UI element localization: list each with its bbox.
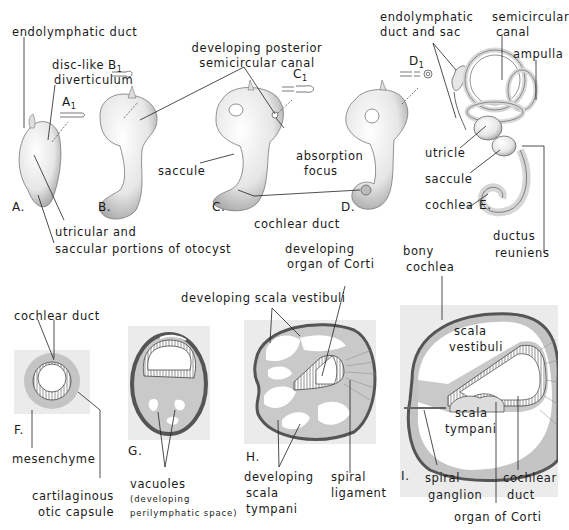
label-spiral-ganglion-2: ganglion [428, 488, 482, 502]
label-absorption-focus-1: absorption [296, 149, 363, 163]
label-developing-scala-vestibuli: developing scala vestibuli [181, 291, 346, 305]
label-bony-cochlea-2: cochlea [406, 260, 455, 274]
label-cochlea: cochlea [425, 198, 474, 212]
panel-label-c: C. [212, 200, 225, 214]
label-utricular-and: utricular and [55, 225, 136, 239]
cross-section-f [14, 350, 90, 414]
label-ductus-reuniens-1: ductus [493, 229, 535, 243]
panel-label-b: B. [98, 200, 111, 214]
label-absorption-focus-2: focus [304, 164, 338, 178]
label-endolymphatic-duct-sac-2: duct and sac [380, 25, 461, 39]
labyrinth-e [452, 50, 536, 212]
label-semicircular-canal-2: canal [496, 25, 530, 39]
otocyst-a [19, 114, 61, 207]
label-scala-tympani-1: scala [455, 406, 488, 420]
label-developing-posterior-1: developing posterior [162, 41, 352, 55]
panel-label-i: I. [401, 469, 410, 483]
label-cochlear-duct-f: cochlear duct [14, 309, 100, 323]
inset-d1 [400, 70, 432, 104]
label-developing-scala-tympani-1: developing [244, 470, 314, 484]
label-spiral-ligament-2: ligament [331, 486, 387, 500]
label-bony-cochlea-1: bony [403, 244, 434, 258]
label-spiral-ligament-1: spiral [331, 470, 366, 484]
label-saccular-portions: saccular portions of otocyst [55, 242, 231, 256]
label-ductus-reuniens-2: reuniens [495, 246, 549, 260]
label-scala-tympani-2: tympani [445, 422, 497, 436]
otocyst-d [346, 80, 408, 209]
panel-label-e: E. [479, 198, 492, 212]
label-developing-organ-corti-2: organ of Corti [287, 257, 375, 271]
label-saccule-c: saccule [158, 164, 205, 178]
label-scala-vestibuli-1: scala [454, 324, 487, 338]
label-developing-scala-tympani-2: scala [246, 486, 279, 500]
label-spiral-ganglion-1: spiral [425, 471, 460, 485]
panel-label-g: G. [128, 444, 142, 458]
panel-label-d: D. [341, 200, 355, 214]
cross-section-h [244, 320, 376, 444]
label-semicircular-canal-1: semicircular [492, 10, 569, 24]
label-ampulla: ampulla [513, 47, 563, 61]
label-endolymphatic-duct-sac-1: endolymphatic [380, 10, 473, 24]
panel-label-f: F. [14, 423, 24, 437]
label-developing-posterior-2: semicircular canal [162, 56, 352, 70]
label-scala-vestibuli-2: vestibuli [449, 340, 503, 354]
label-cochlear-duct: cochlear duct [254, 217, 340, 231]
label-vacuoles: vacuoles [130, 477, 186, 491]
inset-label-a1: A1 [62, 95, 77, 114]
label-cartilaginous-2: otic capsule [38, 505, 114, 519]
label-vacuoles-sub-1: (developing [130, 494, 190, 505]
label-endolymphatic-duct: endolymphatic duct [12, 25, 137, 39]
label-utricle: utricle [425, 146, 466, 160]
label-disc-like-1: disc-like [52, 58, 104, 72]
label-developing-scala-tympani-3: tympani [246, 502, 298, 516]
label-organ-of-corti: organ of Corti [454, 510, 542, 524]
cross-section-g [128, 326, 210, 440]
inset-label-d1: D1 [409, 54, 425, 73]
label-mesenchyme: mesenchyme [12, 452, 95, 466]
inset-label-c1: C1 [293, 67, 308, 86]
inset-label-b1: B1 [108, 58, 123, 77]
label-vacuoles-sub-2: perilymphatic space) [130, 508, 237, 519]
label-cartilaginous-1: cartilaginous [32, 489, 114, 503]
label-cochlear-duct-i-1: cochlear [503, 471, 557, 485]
label-saccule-e: saccule [425, 172, 472, 186]
label-developing-organ-corti-1: developing [285, 242, 355, 256]
panel-label-a: A. [12, 200, 25, 214]
panel-label-h: H. [246, 450, 260, 464]
label-cochlear-duct-i-2: duct [507, 488, 535, 502]
otocyst-c [213, 80, 283, 211]
